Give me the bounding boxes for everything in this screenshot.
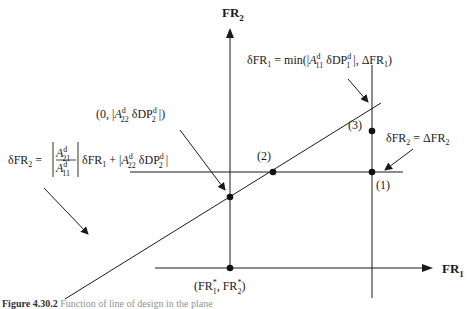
origin-label: (FR*1, FR*2) [194,278,245,296]
point-3 [369,128,376,135]
design-line-arrow [44,188,88,234]
fr2-axis-label: FR2 [222,5,244,23]
dfr1-arrow [348,79,368,102]
point-1 [369,169,376,176]
fr1-axis-label: FR1 [442,261,464,279]
dfr2-limit-arrow [385,149,413,170]
intercept-label: (0, |Ad22 δDPd2 |) [96,106,165,124]
design-line-equation: δFR2 = Ad21 Ad11 δFR1 + |Ad22 δDPd2 | [8,142,168,178]
design-line [65,103,381,299]
fr2-axis [226,28,234,268]
origin-point [227,265,234,272]
svg-text:δFR1 + |Ad22 δDPd2 |: δFR1 + |Ad22 δDPd2 | [82,152,168,170]
intercept-arrow [180,130,225,190]
point-1-label: (1) [376,178,390,192]
diagram-canvas: FR2 FR1 (3) (2) (1) (FR*1, FR*2) δFR1 = … [0,0,469,309]
intercept-point [227,194,234,201]
fr1-axis [155,264,433,272]
dfr2-limit-equation: δFR2 = ΔFR2 [386,131,450,147]
point-3-label: (3) [348,118,362,132]
point-2 [270,169,277,176]
arrow-up-icon [226,28,234,38]
svg-text:δFR2 =: δFR2 = [8,153,42,169]
point-2-label: (2) [257,149,271,163]
dfr1-equation: δFR1 = min(|Ad11 δDPd1 |, ΔFR1) [247,52,392,70]
figure-caption: Figure 4.30.2 Function of line of design… [2,298,213,309]
arrow-right-icon [422,264,433,272]
